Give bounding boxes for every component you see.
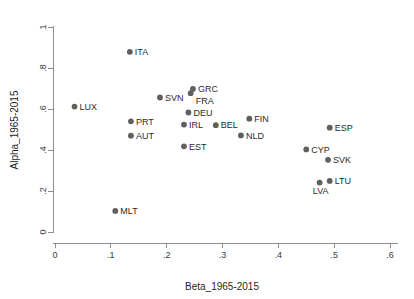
- data-point-label: PRT: [136, 117, 154, 127]
- data-point-marker[interactable]: [128, 133, 134, 139]
- data-point-marker[interactable]: [213, 122, 219, 128]
- data-point-label: FRA: [196, 96, 214, 106]
- data-point[interactable]: MLT: [112, 206, 138, 216]
- y-tick-label: .6: [38, 105, 48, 113]
- data-point-marker[interactable]: [157, 95, 163, 101]
- data-point-marker[interactable]: [327, 178, 333, 184]
- y-tick-label: .8: [38, 64, 48, 72]
- plot-canvas: 0.2.4.6.81 Alpha_1965-2015 0.1.2.3.4.5.6…: [0, 0, 414, 299]
- y-tick-label: .4: [38, 146, 48, 154]
- x-tick-label: .3: [219, 250, 227, 260]
- data-point[interactable]: FIN: [246, 114, 268, 124]
- data-point-label: SVN: [165, 93, 184, 103]
- data-point[interactable]: LVA: [313, 180, 329, 196]
- x-tick-label: .6: [386, 250, 394, 260]
- y-axis: 0.2.4.6.81 Alpha_1965-2015: [9, 24, 53, 234]
- data-point[interactable]: LTU: [327, 176, 351, 186]
- data-point[interactable]: SVK: [325, 155, 351, 165]
- data-point-label: ITA: [135, 47, 148, 57]
- data-point-marker[interactable]: [112, 208, 118, 214]
- y-tick-label: .2: [38, 187, 48, 195]
- data-point-marker[interactable]: [128, 118, 134, 124]
- data-point[interactable]: EST: [181, 142, 207, 152]
- data-point[interactable]: AUT: [128, 131, 154, 141]
- data-point-label: SVK: [333, 155, 351, 165]
- x-tick-label: .2: [163, 250, 171, 260]
- x-tick-label: 0: [52, 250, 57, 260]
- data-point[interactable]: NLD: [238, 131, 264, 141]
- data-point[interactable]: ITA: [127, 47, 148, 57]
- data-point-label: EST: [189, 142, 207, 152]
- data-point-label: GRC: [198, 84, 219, 94]
- data-point[interactable]: CYP: [303, 145, 329, 155]
- data-point-marker[interactable]: [188, 90, 194, 96]
- data-point-marker[interactable]: [181, 122, 187, 128]
- data-point-label: LTU: [335, 176, 351, 186]
- data-point-label: NLD: [246, 131, 265, 141]
- data-point-label: FIN: [254, 114, 268, 124]
- data-point-label: MLT: [120, 206, 138, 216]
- data-point[interactable]: GRC: [190, 84, 218, 94]
- data-point[interactable]: SVN: [157, 93, 183, 103]
- data-point[interactable]: IRL: [181, 120, 203, 130]
- y-tick-label: 0: [38, 229, 48, 234]
- x-axis-ticks: 0.1.2.3.4.5.6: [52, 243, 393, 260]
- y-axis-title: Alpha_1965-2015: [9, 90, 20, 169]
- data-point-label: ESP: [335, 123, 353, 133]
- data-point-label: CYP: [311, 145, 330, 155]
- scatter-chart: 0.2.4.6.81 Alpha_1965-2015 0.1.2.3.4.5.6…: [0, 0, 414, 299]
- data-point-marker[interactable]: [327, 125, 333, 131]
- data-point-marker[interactable]: [246, 116, 252, 122]
- x-tick-label: .1: [107, 250, 115, 260]
- data-point[interactable]: BEL: [213, 120, 238, 130]
- data-point[interactable]: PRT: [128, 117, 154, 127]
- data-point[interactable]: ESP: [327, 123, 353, 133]
- data-point-marker[interactable]: [181, 143, 187, 149]
- x-axis: 0.1.2.3.4.5.6 Beta_1965-2015: [52, 243, 398, 292]
- data-point-label: LVA: [313, 186, 329, 196]
- data-point-label: AUT: [136, 131, 155, 141]
- x-axis-title: Beta_1965-2015: [185, 281, 259, 292]
- data-point-label: LUX: [80, 102, 98, 112]
- data-point-label: DEU: [193, 108, 212, 118]
- data-point-label: BEL: [221, 120, 238, 130]
- y-tick-label: 1: [38, 24, 48, 29]
- data-point[interactable]: LUX: [72, 102, 97, 112]
- y-axis-ticks: 0.2.4.6.81: [38, 24, 53, 234]
- data-point-group: LUXITAMLTPRTAUTSVNIRLESTDEUGRCFRABELNLDF…: [72, 47, 353, 216]
- data-point-marker[interactable]: [303, 146, 309, 152]
- data-point-marker[interactable]: [238, 133, 244, 139]
- data-point-marker[interactable]: [186, 110, 192, 116]
- x-tick-label: .4: [275, 250, 283, 260]
- data-point-label: IRL: [189, 120, 203, 130]
- data-point[interactable]: DEU: [186, 108, 213, 118]
- x-tick-label: .5: [330, 250, 338, 260]
- data-point-marker[interactable]: [72, 104, 78, 110]
- data-point-marker[interactable]: [127, 49, 133, 55]
- data-point-marker[interactable]: [325, 157, 331, 163]
